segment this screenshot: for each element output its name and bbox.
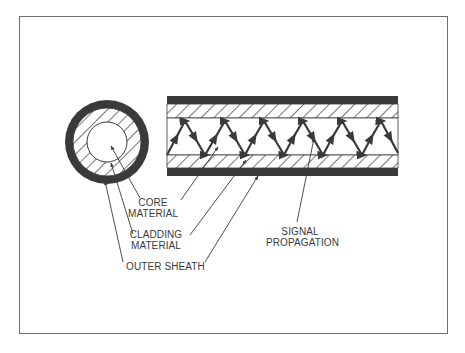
core-label-line1: CORE — [128, 197, 178, 208]
core-label: CORE MATERIAL — [128, 197, 178, 219]
core-circle — [87, 122, 127, 162]
signal-label-line1: SIGNAL — [266, 226, 334, 237]
sheath-bottom — [167, 168, 398, 176]
sheath-leader-right — [205, 176, 258, 262]
core-label-line2: MATERIAL — [128, 208, 178, 219]
cladding-bottom — [167, 155, 398, 168]
sheath-top — [167, 96, 398, 104]
cladding-label-line2: MATERIAL — [128, 240, 184, 251]
sheath-label-text: OUTER SHEATH — [126, 261, 202, 272]
sheath-label: OUTER SHEATH — [126, 261, 202, 272]
cladding-top — [167, 104, 398, 118]
cross-section — [65, 100, 149, 184]
cladding-label: CLADDING MATERIAL — [128, 229, 184, 251]
signal-label: SIGNAL PROPAGATION — [266, 226, 334, 248]
cladding-label-line1: CLADDING — [128, 229, 184, 240]
signal-label-line2: PROPAGATION — [266, 237, 334, 248]
fiber-diagram — [0, 0, 465, 353]
longitudinal-section — [167, 96, 398, 176]
